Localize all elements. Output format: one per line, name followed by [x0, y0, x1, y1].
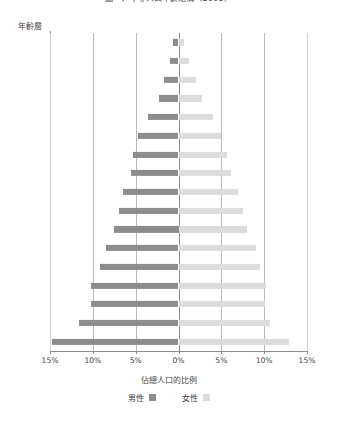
pyramid-row: 0–4: [50, 332, 307, 351]
bar-female: [179, 151, 228, 157]
bar-male: [133, 151, 178, 157]
bar-female: [179, 245, 256, 251]
x-tick-label: 10%: [73, 356, 113, 365]
chart-title: 圖一：中非人口年齡結構（2008）: [0, 0, 337, 3]
gridline-15: [307, 33, 308, 351]
bar-male: [79, 320, 178, 326]
x-tick-label: 15%: [287, 356, 327, 365]
bar-female: [179, 339, 290, 345]
bar-female: [179, 226, 248, 232]
bar-female: [179, 114, 213, 120]
pyramid-row: 5–9: [50, 314, 307, 333]
population-pyramid-figure: 圖一：中非人口年齡結構（2008） 年齡層 80+75–7970–7465–69…: [0, 0, 337, 422]
bar-male: [138, 133, 178, 139]
pyramid-row: 45–49: [50, 164, 307, 183]
bar-male: [106, 245, 179, 251]
bar-female: [179, 208, 243, 214]
bar-male: [91, 301, 178, 307]
legend-item-male: 男性: [128, 392, 156, 403]
pyramid-row: 40–44: [50, 183, 307, 202]
bar-male: [164, 77, 179, 83]
legend-male-label: 男性: [128, 392, 144, 403]
pyramid-row: 60–64: [50, 108, 307, 127]
bar-female: [179, 320, 271, 326]
bar-female: [179, 301, 266, 307]
x-tick-label: 10%: [244, 356, 284, 365]
bar-male: [123, 189, 179, 195]
x-tick: [93, 351, 94, 354]
x-tick: [136, 351, 137, 354]
x-tick-label: 0%: [159, 356, 199, 365]
legend-female-label: 女性: [182, 392, 198, 403]
pyramid-row: 55–59: [50, 127, 307, 146]
legend-male-swatch: [149, 394, 156, 401]
bar-female: [179, 282, 266, 288]
pyramid-row: 10–14: [50, 295, 307, 314]
x-tick-label: 5%: [201, 356, 241, 365]
legend-item-female: 女性: [182, 392, 210, 403]
pyramid-row: 50–54: [50, 145, 307, 164]
x-tick-label: 5%: [116, 356, 156, 365]
bar-male: [100, 264, 179, 270]
bar-female: [179, 39, 185, 45]
pyramid-row: 75–79: [50, 52, 307, 71]
bar-female: [179, 189, 239, 195]
x-tick: [307, 351, 308, 354]
bar-male: [131, 170, 179, 176]
pyramid-row: 25–29: [50, 239, 307, 258]
bar-male: [91, 282, 178, 288]
x-tick: [179, 351, 180, 354]
y-axis-title: 年齡層: [18, 20, 42, 31]
bar-male: [114, 226, 178, 232]
bar-female: [179, 264, 260, 270]
bar-female: [179, 77, 196, 83]
x-tick: [50, 351, 51, 354]
bar-female: [179, 58, 189, 64]
pyramid-row: 30–34: [50, 220, 307, 239]
x-tick: [264, 351, 265, 354]
bar-female: [179, 95, 203, 101]
bar-male: [148, 114, 179, 120]
bar-male: [170, 58, 179, 64]
pyramid-row: 65–69: [50, 89, 307, 108]
x-tick-label: 15%: [30, 356, 70, 365]
pyramid-row: 80+: [50, 33, 307, 52]
bar-male: [159, 95, 179, 101]
bar-male: [52, 339, 179, 345]
legend-female-swatch: [203, 394, 210, 401]
bar-male: [119, 208, 179, 214]
bar-female: [179, 170, 231, 176]
x-tick: [221, 351, 222, 354]
pyramid-row: 70–74: [50, 70, 307, 89]
pyramid-row: 35–39: [50, 201, 307, 220]
pyramid-row: 15–19: [50, 276, 307, 295]
x-axis-title: 佔總人口的比例: [0, 374, 337, 385]
bar-female: [179, 133, 222, 139]
legend: 男性 女性: [0, 392, 337, 403]
pyramid-row: 20–24: [50, 257, 307, 276]
plot-area: 80+75–7970–7465–6960–6455–5950–5445–4940…: [50, 33, 307, 351]
